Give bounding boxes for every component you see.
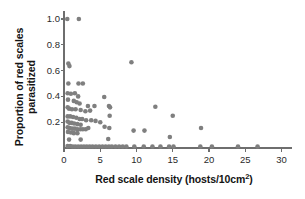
data-point: [142, 128, 147, 133]
scatter-plot-figure: Proportion of red scales parasitized Red…: [0, 0, 305, 199]
data-point: [107, 113, 112, 118]
data-point: [107, 126, 112, 131]
data-point: [92, 104, 97, 109]
data-point: [73, 107, 78, 112]
data-point: [171, 144, 176, 149]
axis-ticks: [61, 19, 282, 152]
data-point: [106, 137, 111, 142]
data-point: [66, 81, 71, 86]
data-point: [102, 124, 107, 129]
data-point: [78, 108, 83, 113]
data-point: [150, 144, 155, 149]
axes-lines: [64, 11, 292, 148]
data-points: [65, 17, 260, 149]
data-point: [67, 137, 72, 142]
data-point: [81, 81, 86, 86]
data-point: [102, 95, 107, 100]
data-point: [198, 144, 203, 149]
data-point: [129, 60, 134, 65]
data-point: [124, 144, 129, 149]
data-point: [69, 92, 74, 97]
data-point: [167, 144, 172, 149]
data-point: [67, 64, 72, 69]
data-point: [255, 144, 260, 149]
data-point: [199, 126, 204, 131]
data-point: [83, 127, 88, 132]
data-point: [66, 97, 71, 102]
data-point: [131, 128, 136, 133]
data-point: [108, 105, 113, 110]
data-point: [88, 108, 93, 113]
data-point: [168, 135, 173, 140]
data-point: [78, 122, 83, 127]
data-point: [76, 81, 81, 86]
data-point: [89, 118, 94, 123]
data-point: [65, 17, 70, 22]
data-point: [78, 137, 83, 142]
data-point: [76, 94, 81, 99]
data-point: [75, 131, 80, 136]
data-point: [86, 104, 91, 109]
data-point: [141, 144, 146, 149]
data-point: [98, 120, 103, 125]
data-point: [170, 113, 175, 118]
data-point: [84, 118, 89, 123]
data-point: [80, 117, 85, 122]
data-point: [83, 109, 88, 114]
data-point: [77, 101, 82, 106]
data-point: [158, 144, 163, 149]
data-point: [236, 144, 241, 149]
data-point: [153, 104, 158, 109]
plot-canvas: [0, 0, 305, 199]
data-point: [132, 144, 137, 149]
data-point: [77, 17, 82, 22]
data-point: [73, 91, 78, 96]
data-point: [210, 144, 215, 149]
data-point: [93, 119, 98, 124]
